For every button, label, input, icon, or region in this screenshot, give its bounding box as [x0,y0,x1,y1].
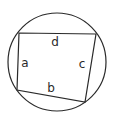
side-label-b: b [47,81,55,95]
side-label-c: c [79,57,86,71]
side-label-a: a [21,56,28,70]
side-label-d: d [51,35,59,49]
cyclic-quadrilateral-diagram: a b c d [0,0,113,121]
